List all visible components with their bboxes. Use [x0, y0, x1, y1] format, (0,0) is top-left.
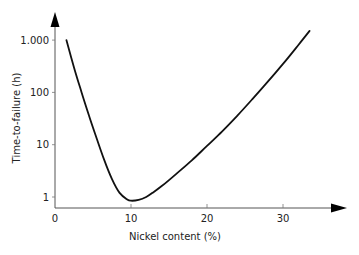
y-tick-label: 1	[43, 192, 49, 203]
x-tick-label: 20	[201, 213, 214, 224]
y-ticks: 1101001.000	[20, 35, 55, 203]
y-tick-label: 10	[36, 139, 49, 150]
x-axis: 0102030	[52, 204, 347, 225]
y-axis: 1101001.000	[20, 12, 59, 208]
x-ticks: 0102030	[52, 204, 290, 224]
y-axis-label: Time-to-failure (h)	[11, 72, 22, 164]
y-tick-label: 100	[30, 87, 49, 98]
x-axis-arrow-icon	[331, 204, 347, 213]
x-axis-label: Nickel content (%)	[129, 231, 221, 242]
y-axis-arrow-icon	[51, 12, 60, 27]
x-tick-label: 0	[52, 213, 58, 224]
x-tick-label: 30	[277, 213, 290, 224]
x-tick-label: 10	[125, 213, 138, 224]
y-tick-label: 1.000	[20, 35, 49, 46]
time-to-failure-chart: 1101001.000 0102030 Nickel content (%) T…	[0, 0, 359, 255]
data-curve	[66, 31, 309, 201]
